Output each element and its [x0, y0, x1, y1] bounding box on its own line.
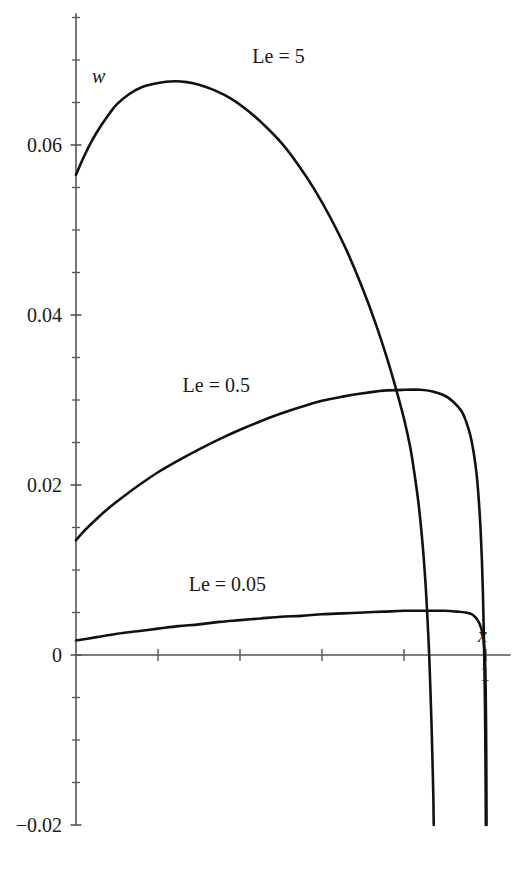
curve-label-le-0.5: Le = 0.5 — [183, 375, 250, 395]
chart-figure: 0.06 0.04 0.02 0 −0.02 1 w x Le = 5 Le =… — [0, 0, 524, 879]
curves-group — [76, 81, 487, 825]
x-tick-label-1: 1 — [480, 664, 490, 684]
chart-plot-area — [0, 0, 524, 879]
axes-group — [71, 13, 511, 825]
y-tick-label-minus-0.02: −0.02 — [0, 815, 62, 835]
y-tick-label-0.06: 0.06 — [0, 135, 62, 155]
x-axis-label: x — [478, 625, 487, 645]
curve-le-0-05 — [76, 611, 487, 825]
curve-label-le-5: Le = 5 — [252, 46, 304, 66]
y-tick-label-0: 0 — [0, 645, 62, 665]
y-tick-label-0.04: 0.04 — [0, 305, 62, 325]
curve-le-5 — [76, 81, 434, 825]
y-tick-label-0.02: 0.02 — [0, 475, 62, 495]
y-axis-label: w — [92, 66, 105, 86]
curve-label-le-0.05: Le = 0.05 — [189, 574, 266, 594]
curve-le-0-5 — [76, 390, 486, 825]
